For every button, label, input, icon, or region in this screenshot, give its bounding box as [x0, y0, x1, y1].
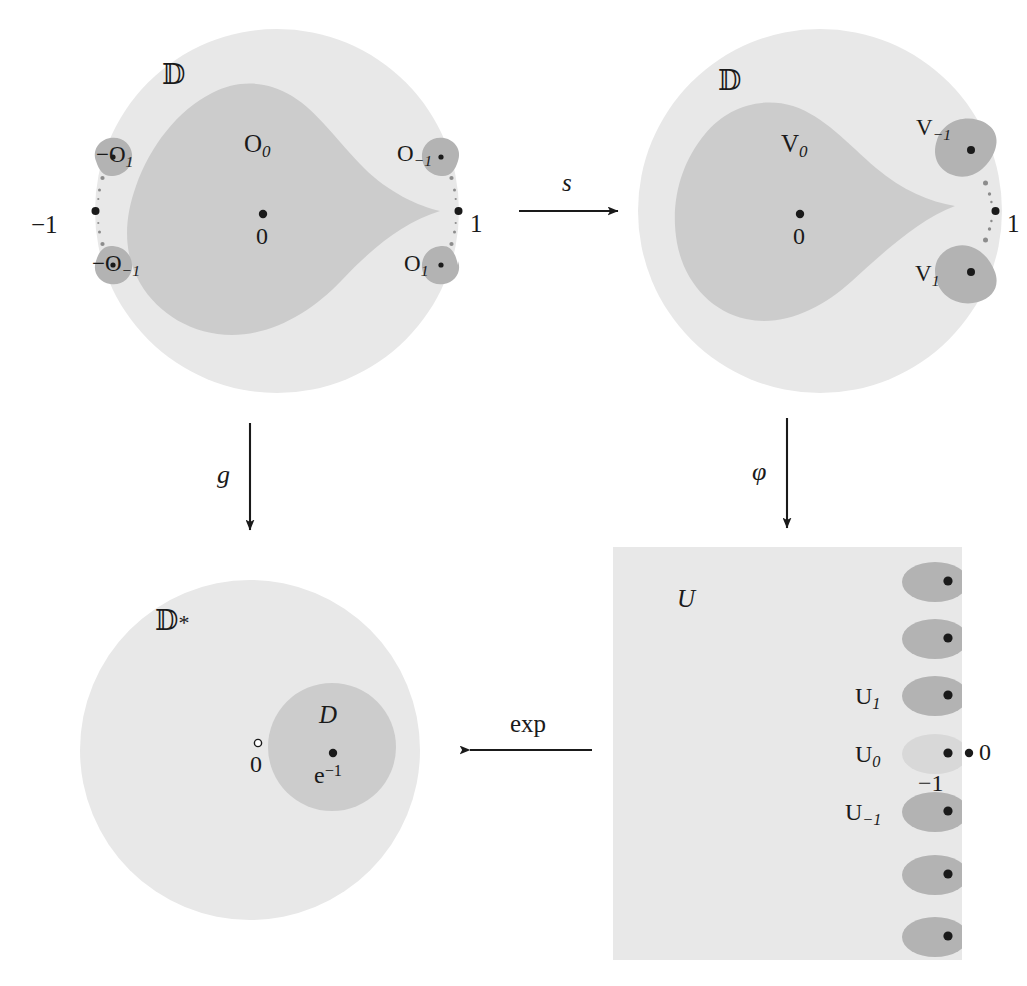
label-blob-O-1: O−1 [397, 142, 432, 169]
label-O-1-sub: −1 [414, 152, 432, 169]
label-point-minus-one-U: −1 [918, 771, 944, 795]
label-e-inverse: e−1 [314, 763, 342, 787]
label--O1-base: −O [96, 142, 126, 167]
label--O1-sub: 1 [126, 153, 134, 170]
arrow-label-phi: φ [752, 459, 766, 485]
label-O0-sub: 0 [262, 142, 271, 161]
commutative-diagram: 𝔻 O0 0 −1 1 −O1 −O−1 O−1 O1 𝔻 V0 0 1 V−1… [0, 0, 1027, 986]
label-blob-O1: O1 [404, 252, 428, 279]
label-point-zero-U: 0 [979, 740, 991, 764]
label-U1-base: U [855, 683, 872, 709]
panel-top-right [638, 29, 1002, 393]
point-origin-O [259, 210, 267, 218]
label-V0-base: V [781, 130, 799, 157]
panel-bottom-left [80, 580, 420, 920]
label-V0-sub: 0 [799, 142, 808, 161]
label-disk-D-topright: 𝔻 [718, 68, 741, 95]
label-V1-sub: 1 [932, 272, 940, 289]
label-origin-topright: 0 [793, 224, 805, 248]
label-V1-base: V [915, 261, 932, 286]
label-U-1-base: U [845, 799, 862, 825]
panel-bottom-right [613, 547, 973, 960]
blob-U0 [902, 734, 968, 774]
point-one-V [992, 207, 1000, 215]
point-origin-punctured [254, 739, 261, 746]
label-U-1: U−1 [845, 800, 882, 829]
label-V-1-base: V [916, 115, 933, 140]
label-O0: O0 [244, 131, 271, 160]
label-e-exp: −1 [325, 761, 342, 780]
label-U0-base: U [855, 741, 872, 767]
label-D-star-mark: * [178, 610, 189, 635]
label-blob-V1: V1 [915, 262, 939, 289]
blob-U-row [902, 917, 968, 957]
label-origin-topleft: 0 [256, 224, 268, 248]
label-O1-sub: 1 [421, 262, 429, 279]
label-D-star-base: 𝔻 [155, 606, 178, 636]
label-minus-one-topleft: −1 [31, 212, 58, 237]
label-one-topleft: 1 [470, 211, 483, 236]
point-one-right [455, 207, 463, 215]
label-blob-V-1: V−1 [916, 116, 951, 143]
label-V-1-sub: −1 [933, 126, 951, 143]
point-e-inverse [329, 749, 337, 757]
blob-U-row [902, 562, 968, 602]
label-U1-sub: 1 [872, 694, 880, 713]
point-minus-one-left [92, 207, 100, 215]
label-origin-punctured: 0 [250, 752, 262, 776]
label--O-1-sub: −1 [122, 262, 140, 279]
diagram-canvas [0, 0, 1027, 986]
point-origin-V [796, 210, 804, 218]
label-U0-sub: 0 [872, 752, 880, 771]
label-U-1-sub: −1 [862, 810, 881, 829]
label-one-topright: 1 [1007, 211, 1020, 236]
label-O0-base: O [244, 130, 262, 157]
label-disk-D-topleft: 𝔻 [162, 62, 185, 89]
blob-U-1 [902, 792, 968, 832]
arrow-label-s: s [562, 170, 572, 195]
label-region-U: U [677, 586, 695, 611]
label-V0: V0 [781, 131, 808, 160]
panel-top-left [92, 29, 463, 393]
label-blob--O1: −O1 [96, 143, 133, 170]
label-region-D: D [319, 702, 337, 727]
arrow-label-exp: exp [510, 711, 546, 736]
label-blob--O-1: −O−1 [92, 252, 140, 279]
label-U0: U0 [855, 742, 881, 771]
label-U1: U1 [855, 684, 881, 713]
arrow-label-g: g [217, 462, 230, 488]
label-O1-base: O [404, 251, 421, 276]
label-punctured-disk: 𝔻* [155, 608, 189, 635]
blob-U-row [902, 619, 968, 659]
point-zero-U [965, 749, 973, 757]
blob-U1 [902, 676, 968, 716]
label--O-1-base: −O [92, 251, 122, 276]
blob-U-row [902, 855, 968, 895]
label-O-1-base: O [397, 141, 414, 166]
label-e-base: e [314, 762, 325, 788]
